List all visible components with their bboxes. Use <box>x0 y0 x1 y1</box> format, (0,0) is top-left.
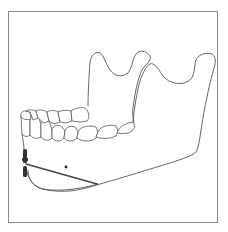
mental-foramen-dot <box>65 166 68 169</box>
mandible-illustration <box>0 0 228 232</box>
